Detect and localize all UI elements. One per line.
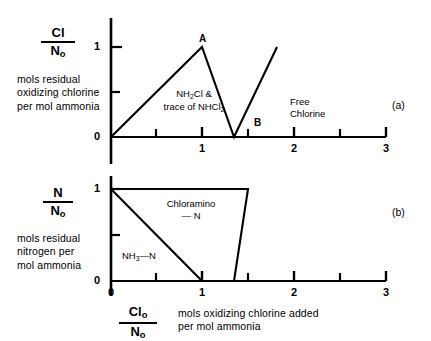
panel-a-y-axis-fraction: Cl No — [30, 26, 86, 60]
panel-a-monochloramine-line1-prefix: NH — [176, 88, 190, 99]
x-axis-denominator: N — [130, 324, 139, 339]
panel-a-free-chlorine-label: Free Chlorine — [290, 96, 352, 120]
panel-b-ammonia-prefix: NH — [122, 250, 136, 261]
panel-b-x-tick-label-3: 3 — [379, 286, 393, 298]
panel-a-point-label-a: A — [199, 33, 206, 44]
panel-a-monochloramine-line2-sub: 2 — [221, 106, 225, 113]
panel-b-y-axis-caption: mols residualnitrogen permol ammonia — [17, 232, 109, 272]
panel-b-y-axis-fraction: N No — [30, 186, 86, 220]
panel-a-x-tick-label-3: 3 — [379, 142, 393, 154]
panel-b-chloramine-line2: — N — [182, 210, 201, 221]
panel-b-y-numerator: N — [30, 186, 86, 201]
panel-b-identifier: (b) — [392, 206, 405, 218]
x-axis-denominator-subscript: o — [140, 330, 146, 340]
x-axis-numerator-subscript: o — [142, 310, 148, 320]
panel-a-free-chlorine-line1: Free — [290, 96, 310, 107]
panel-b-ammonia-nitrogen-label: NH3—N — [122, 250, 182, 263]
panel-a-y-denominator-wrap: No — [30, 43, 86, 60]
panel-b-x-tick-label-1: 1 — [195, 286, 209, 298]
x-axis-denominator-wrap: No — [110, 324, 166, 341]
panel-a-y-tick-label-0: 0 — [90, 130, 104, 142]
panel-b-y-tick-label-0: 0 — [90, 274, 104, 286]
panel-b-y-denominator-subscript: o — [60, 209, 66, 219]
panel-a-monochloramine-label: NH2Cl & trace of NHCl2 — [148, 88, 240, 115]
panel-b-y-denominator: N — [50, 203, 59, 218]
panel-a-identifier: (a) — [392, 99, 405, 111]
panel-b-chloramine-nitrogen-label: Chloramino — N — [148, 198, 234, 222]
panel-a-x-tick-label-1: 1 — [195, 142, 209, 154]
panel-a-x-tick-label-2: 2 — [287, 142, 301, 154]
panel-a-point-label-b: B — [254, 117, 261, 128]
panel-b-x-tick-label-0: 0 — [104, 286, 118, 298]
panel-a-monochloramine-line2-prefix: trace of NHCl — [164, 101, 221, 112]
panel-a-y-tick-label-1: 1 — [90, 40, 104, 52]
panel-b-chloramine-line1: Chloramino — [167, 198, 216, 209]
x-axis-fraction: Clo No — [110, 305, 166, 341]
panel-b-y-denominator-wrap: No — [30, 203, 86, 220]
panel-a-y-denominator: N — [50, 43, 59, 58]
panel-b-x-tick-label-2: 2 — [287, 286, 301, 298]
panel-b-ammonia-suffix: —N — [140, 250, 156, 261]
panel-a-free-chlorine-line2: Chlorine — [290, 108, 325, 119]
panel-a-monochloramine-line1-suffix: Cl & — [194, 88, 212, 99]
panel-a-y-axis-caption: mols residualoxidizing chlorineper mol a… — [17, 73, 109, 113]
figure-canvas: Cl No mols residualoxidizing chlorineper… — [0, 0, 431, 341]
x-axis-numerator: Cl — [129, 304, 142, 319]
panel-a-y-numerator: Cl — [30, 26, 86, 41]
x-axis-caption: mols oxidizing chlorine addedper mol amm… — [178, 307, 338, 334]
panel-b-y-tick-label-1: 1 — [90, 182, 104, 194]
panel-a-y-denominator-subscript: o — [60, 49, 66, 59]
x-axis-numerator-wrap: Clo — [110, 305, 166, 322]
